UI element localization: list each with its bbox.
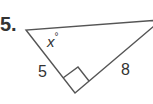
angle-variable: x bbox=[47, 33, 55, 50]
right-triangle-figure: 5. x° 5 8 bbox=[0, 0, 153, 104]
degree-symbol: ° bbox=[55, 31, 59, 42]
side-label-left: 5 bbox=[38, 64, 47, 80]
problem-number: 5. bbox=[0, 14, 17, 34]
right-angle-marker bbox=[63, 67, 89, 81]
triangle-svg bbox=[0, 0, 153, 104]
angle-label: x° bbox=[47, 34, 59, 49]
side-label-right: 8 bbox=[121, 62, 130, 78]
triangle-outline bbox=[26, 20, 153, 93]
